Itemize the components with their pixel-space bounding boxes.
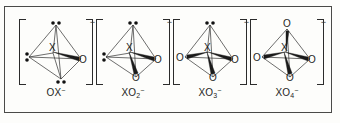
lone-pair-left xyxy=(102,52,106,62)
lone-pair-top xyxy=(128,21,138,25)
tetrahedron-diagram: X O O xyxy=(98,17,168,87)
tetrahedron-diagram: X O O O O xyxy=(252,17,322,87)
oxygen-atom-right: O xyxy=(231,54,239,65)
lone-pair-bottom xyxy=(56,80,66,84)
center-atom-label: X xyxy=(281,42,288,53)
species-label: XO4− xyxy=(248,87,326,99)
center-atom-label: X xyxy=(126,42,133,53)
center-atom-label: X xyxy=(49,42,56,53)
label-formula: OX xyxy=(46,87,61,98)
oxygen-atom-bottom: O xyxy=(132,72,140,83)
species-label: XO3− xyxy=(171,87,249,99)
oxygen-atom-right: O xyxy=(79,54,87,65)
tetrahedron-diagram: X O xyxy=(21,17,91,87)
lone-pair-top xyxy=(51,21,61,25)
oxygen-atom-top: O xyxy=(283,18,291,29)
oxygen-atom-bottom: O xyxy=(209,72,217,83)
oxygen-atom-right: O xyxy=(308,54,316,65)
label-formula: XO xyxy=(198,87,213,98)
species-label: XO2− xyxy=(94,87,172,99)
chemistry-figure: − X xyxy=(0,0,340,123)
label-charge: − xyxy=(140,87,144,94)
center-atom-label: X xyxy=(204,42,211,53)
species-label: OX− xyxy=(17,87,95,98)
lone-pair-top xyxy=(205,21,215,25)
species-xo2-minus: − X xyxy=(94,17,172,109)
species-xo3-minus: − X xyxy=(171,17,249,109)
label-charge: − xyxy=(217,87,221,94)
oxygen-atom-left: O xyxy=(176,52,184,63)
label-charge: − xyxy=(61,87,65,94)
lone-pair-left xyxy=(25,52,29,62)
oxygen-atom-left: O xyxy=(253,52,261,63)
oxygen-atom-bottom: O xyxy=(286,72,294,83)
species-ox-minus: − X xyxy=(17,17,95,109)
label-formula: XO xyxy=(121,87,136,98)
label-formula: XO xyxy=(275,87,290,98)
label-charge: − xyxy=(294,87,298,94)
figure-frame: − X xyxy=(4,6,332,113)
species-xo4-minus: − X O xyxy=(248,17,326,109)
oxygen-atom-right: O xyxy=(154,54,162,65)
tetrahedron-diagram: X O O O xyxy=(175,17,245,87)
